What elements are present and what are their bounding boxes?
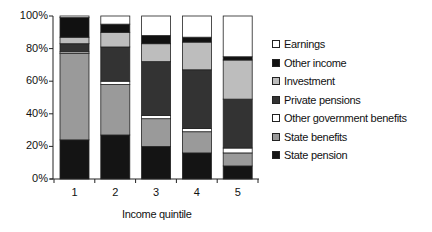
bar-segment (182, 70, 211, 129)
y-tick-label: 60% (8, 74, 48, 86)
bar-segment (60, 16, 89, 18)
bar-segment (223, 60, 252, 99)
legend-item: Other income (272, 54, 407, 73)
bar-segment (101, 84, 130, 135)
bar-segment (182, 37, 211, 42)
legend-label: State pension (284, 149, 347, 161)
bar-segment (101, 16, 130, 24)
bar-segment (142, 62, 171, 116)
legend: EarningsOther incomeInvestmentPrivate pe… (272, 35, 407, 165)
y-tick-label: 0% (8, 172, 48, 184)
legend-item: State benefits (272, 128, 407, 147)
bar-segment (223, 153, 252, 166)
bar-segment (101, 81, 130, 84)
legend-swatch (272, 96, 280, 104)
legend-swatch (272, 114, 280, 122)
bar-segment (142, 36, 171, 44)
x-tick-label: 3 (146, 186, 166, 198)
bar-segment (182, 128, 211, 131)
bar-segment (60, 53, 89, 139)
bar-segment (223, 99, 252, 148)
legend-label: Other income (284, 57, 346, 69)
bar-segment (101, 32, 130, 47)
bar-segment (142, 146, 171, 179)
legend-swatch (272, 151, 280, 159)
legend-swatch (272, 40, 280, 48)
bar-segment (60, 18, 89, 38)
bar-segment (182, 153, 211, 179)
stacked-bar-chart: 0%20%40%60%80%100% 12345 Income quintile… (0, 0, 432, 232)
y-tick-label: 20% (8, 139, 48, 151)
y-tick-label: 100% (8, 9, 48, 21)
legend-label: State benefits (284, 131, 347, 143)
x-tick-label: 4 (187, 186, 207, 198)
bar-segment (223, 16, 252, 57)
x-tick-label: 2 (105, 186, 125, 198)
x-tick-label: 5 (228, 186, 248, 198)
legend-item: Private pensions (272, 91, 407, 110)
x-tick-label: 1 (65, 186, 85, 198)
legend-label: Investment (284, 75, 335, 87)
y-tick-label: 80% (8, 42, 48, 54)
legend-item: Earnings (272, 35, 407, 54)
x-axis-label: Income quintile (122, 208, 192, 220)
bar-segment (182, 132, 211, 153)
legend-label: Other government benefits (284, 112, 407, 124)
legend-label: Private pensions (284, 94, 361, 106)
legend-label: Earnings (284, 38, 325, 50)
bar-segment (60, 140, 89, 179)
bar-segment (142, 119, 171, 147)
bar-segment (142, 115, 171, 118)
legend-item: State pension (272, 146, 407, 165)
legend-swatch (272, 77, 280, 85)
bar-segment (101, 47, 130, 81)
legend-swatch (272, 133, 280, 141)
bar-segment (223, 57, 252, 60)
bar-segment (223, 148, 252, 153)
bar-segment (60, 37, 89, 44)
bar-segment (142, 44, 171, 62)
bar-segment (60, 44, 89, 52)
legend-swatch (272, 59, 280, 67)
bar-segment (101, 24, 130, 32)
bar-segment (182, 16, 211, 37)
bar-segment (182, 42, 211, 70)
legend-item: Investment (272, 72, 407, 91)
bar-segment (142, 16, 171, 36)
legend-item: Other government benefits (272, 109, 407, 128)
bar-segment (223, 166, 252, 179)
y-tick-label: 40% (8, 107, 48, 119)
bar-segment (101, 135, 130, 179)
